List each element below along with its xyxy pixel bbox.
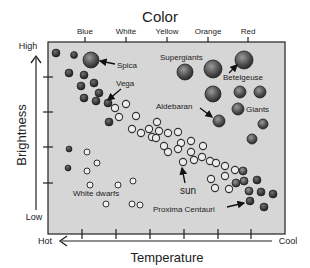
star-white-dwarf bbox=[94, 160, 100, 166]
star-main-sequence-open bbox=[174, 145, 181, 152]
color-tick-label-yellow: Yellow bbox=[156, 27, 179, 36]
star-main-sequence-open bbox=[152, 134, 159, 141]
color-tick-label-white: White bbox=[116, 27, 137, 36]
star-main-sequence-open bbox=[160, 142, 167, 149]
star-white-dwarf bbox=[87, 182, 93, 188]
star-main-sequence-open bbox=[198, 153, 205, 160]
star-main-sequence-dark bbox=[260, 203, 268, 211]
star-giant bbox=[205, 86, 221, 102]
star-white-dwarf bbox=[84, 168, 90, 174]
star-giant bbox=[247, 134, 257, 144]
star-main-sequence-dark bbox=[246, 197, 254, 205]
star-main-sequence-open bbox=[221, 162, 228, 169]
star-main-sequence-open bbox=[111, 104, 118, 111]
star-main-sequence-dark bbox=[80, 71, 88, 79]
star-giant bbox=[213, 115, 225, 127]
star-main-sequence-shaded bbox=[240, 177, 248, 185]
star-main-sequence-dark bbox=[90, 79, 98, 87]
star-giant bbox=[232, 103, 244, 115]
star-main-sequence-open bbox=[153, 118, 160, 125]
x-axis-cool-label: Cool bbox=[279, 236, 298, 246]
star-main-sequence-dark bbox=[66, 146, 72, 152]
star-main-sequence-open bbox=[128, 125, 135, 132]
annotation-supergiants: Supergiants bbox=[160, 53, 203, 62]
star-main-sequence-shaded bbox=[239, 167, 247, 175]
annotation-sun: sun bbox=[180, 185, 196, 196]
star-main-sequence-dark bbox=[80, 94, 88, 102]
star-main-sequence-shaded bbox=[232, 179, 240, 187]
color-tick-label-red: Red bbox=[241, 27, 256, 36]
star-main-sequence-open bbox=[115, 113, 122, 120]
y-axis-high-label: High bbox=[19, 41, 38, 51]
star-giant bbox=[204, 60, 222, 78]
annotation-betelgeuse: Betelgeuse bbox=[223, 73, 264, 82]
star-main-sequence-dark bbox=[104, 99, 112, 107]
star-main-sequence-open bbox=[164, 129, 171, 136]
star-main-sequence-open bbox=[179, 158, 186, 165]
annotation-spica: Spica bbox=[117, 61, 138, 70]
star-main-sequence-dark bbox=[92, 97, 100, 105]
star-giant bbox=[235, 51, 253, 69]
star-giant bbox=[177, 64, 193, 80]
star-main-sequence-dark bbox=[71, 52, 78, 59]
star-main-sequence-open bbox=[155, 127, 162, 134]
star-giant bbox=[254, 86, 266, 98]
star-main-sequence-open bbox=[221, 172, 228, 179]
star-main-sequence-open bbox=[207, 175, 214, 182]
star-main-sequence-open bbox=[231, 166, 238, 173]
star-main-sequence-open bbox=[212, 159, 219, 166]
star-white-dwarf bbox=[115, 182, 121, 188]
star-main-sequence-dark bbox=[105, 118, 113, 126]
annotation-white-dwarfs: White dwarfs bbox=[73, 189, 119, 198]
y-axis-title: Brightness bbox=[14, 104, 29, 166]
star-main-sequence-dark bbox=[257, 188, 265, 196]
star-main-sequence-dark bbox=[269, 190, 277, 198]
star-main-sequence-dark bbox=[95, 89, 103, 97]
star-main-sequence-dark bbox=[253, 176, 261, 184]
star-main-sequence-open bbox=[122, 100, 129, 107]
color-tick-label-orange: Orange bbox=[195, 27, 222, 36]
star-main-sequence-open bbox=[132, 112, 139, 119]
star-main-sequence-dark bbox=[65, 165, 71, 171]
annotation-proxima-centauri: Proxima Centauri bbox=[153, 205, 215, 214]
star-main-sequence-open bbox=[211, 184, 218, 191]
star-main-sequence-open bbox=[145, 125, 152, 132]
star-white-dwarf bbox=[129, 201, 135, 207]
hr-diagram: Color BlueWhiteYellowOrangeRed SpicaVega… bbox=[0, 0, 310, 268]
star-main-sequence-dark bbox=[77, 82, 85, 90]
star-white-dwarf bbox=[103, 201, 109, 207]
color-tick-label-blue: Blue bbox=[77, 27, 94, 36]
y-axis-low-label: Low bbox=[26, 212, 43, 222]
star-main-sequence-open bbox=[225, 185, 232, 192]
star-white-dwarf bbox=[130, 178, 136, 184]
chart-title: Color bbox=[142, 8, 178, 25]
star-main-sequence-open bbox=[190, 156, 197, 163]
x-axis-title: Temperature bbox=[131, 250, 204, 265]
star-main-sequence-open bbox=[199, 142, 206, 149]
star-main-sequence-open bbox=[187, 148, 194, 155]
star-white-dwarf bbox=[84, 149, 90, 155]
annotation-aldebaran: Aldebaran bbox=[156, 102, 192, 111]
star-main-sequence-open bbox=[137, 129, 144, 136]
star-main-sequence-shaded bbox=[245, 187, 253, 195]
star-main-sequence-dark bbox=[65, 69, 73, 77]
star-main-sequence-dark bbox=[52, 49, 60, 57]
star-giant bbox=[258, 119, 268, 129]
annotation-vega: Vega bbox=[116, 79, 135, 88]
star-giant bbox=[83, 52, 99, 68]
x-axis-hot-label: Hot bbox=[38, 236, 53, 246]
star-main-sequence-open bbox=[187, 137, 194, 144]
star-white-dwarf bbox=[137, 202, 143, 208]
annotation-giants: Giants bbox=[246, 105, 269, 114]
star-giant bbox=[234, 86, 246, 98]
star-main-sequence-open bbox=[174, 128, 181, 135]
